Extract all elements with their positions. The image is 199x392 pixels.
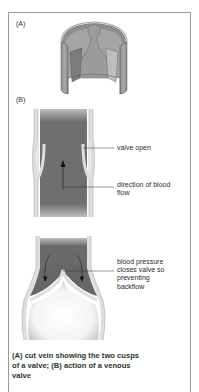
label-valve-open: valve open [117, 144, 151, 152]
cut-vein-illustration [61, 22, 127, 94]
caption-line2: of a valve; (B) action of a venous [12, 361, 190, 371]
label-blood-pressure: blood pressure closes valve so preventin… [117, 258, 164, 291]
vein-valve-closed [22, 236, 114, 340]
caption-line1: (A) cut vein showing the two cusps [12, 351, 190, 361]
vein-valve-open [33, 109, 115, 217]
figure-caption: (A) cut vein showing the two cusps of a … [12, 351, 190, 381]
caption-line3: valve [12, 371, 190, 381]
label-pressure-line3: preventing [117, 274, 164, 282]
label-pressure-line4: backflow [117, 283, 164, 291]
label-direction-line2: flow [117, 189, 170, 197]
label-pressure-line2: closes valve so [117, 266, 164, 274]
label-pressure-line1: blood pressure [117, 258, 164, 266]
label-direction-line1: direction of blood [117, 181, 170, 189]
label-direction-of-flow: direction of blood flow [117, 181, 170, 197]
